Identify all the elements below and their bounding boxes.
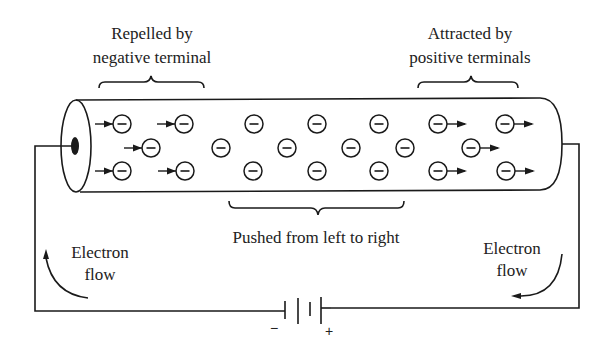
battery-negative-sign: − [270,320,278,336]
electron [370,162,388,180]
motion-arrow-icon [166,121,175,128]
electron [497,162,535,180]
electron [370,115,388,133]
electron [245,115,263,133]
motion-arrow-icon [525,168,535,175]
label-left-flow-line1: Electron [71,243,129,262]
brace-repelled [99,76,204,88]
battery-positive-sign: + [325,323,333,339]
label-attracted-line2: positive terminals [409,48,530,67]
label-left-flow-line2: flow [84,265,116,284]
motion-arrow-icon [167,168,176,175]
label-repelled-line1: Repelled by [111,24,193,43]
electron [157,115,193,133]
electron [429,162,467,180]
motion-arrow-icon [457,121,467,128]
battery-icon: − + [270,297,333,339]
electrons-group [95,115,535,180]
electron [308,162,326,180]
label-right-flow-line1: Electron [483,239,541,258]
label-pushed: Pushed from left to right [232,228,399,247]
electron-flow-diagram: Repelled by negative terminal Attracted … [0,0,609,343]
electron [158,162,194,180]
electron [308,115,326,133]
electron [496,115,534,133]
motion-arrow-icon [104,121,113,128]
electron [244,162,262,180]
motion-arrow-icon [104,168,113,175]
brace-pushed [229,201,404,215]
electron [462,139,500,157]
motion-arrow-icon [133,145,142,152]
electron [95,162,131,180]
electron [396,139,414,157]
electron [212,139,230,157]
electron [342,139,360,157]
electron [124,139,160,157]
label-attracted-line1: Attracted by [428,24,513,43]
electron [278,139,296,157]
label-repelled-line2: negative terminal [93,48,212,67]
motion-arrow-icon [457,168,467,175]
electron [95,115,131,133]
motion-arrow-icon [524,121,534,128]
electron [429,115,467,133]
brace-attracted [418,76,518,88]
motion-arrow-icon [490,145,500,152]
label-right-flow-line2: flow [496,261,528,280]
